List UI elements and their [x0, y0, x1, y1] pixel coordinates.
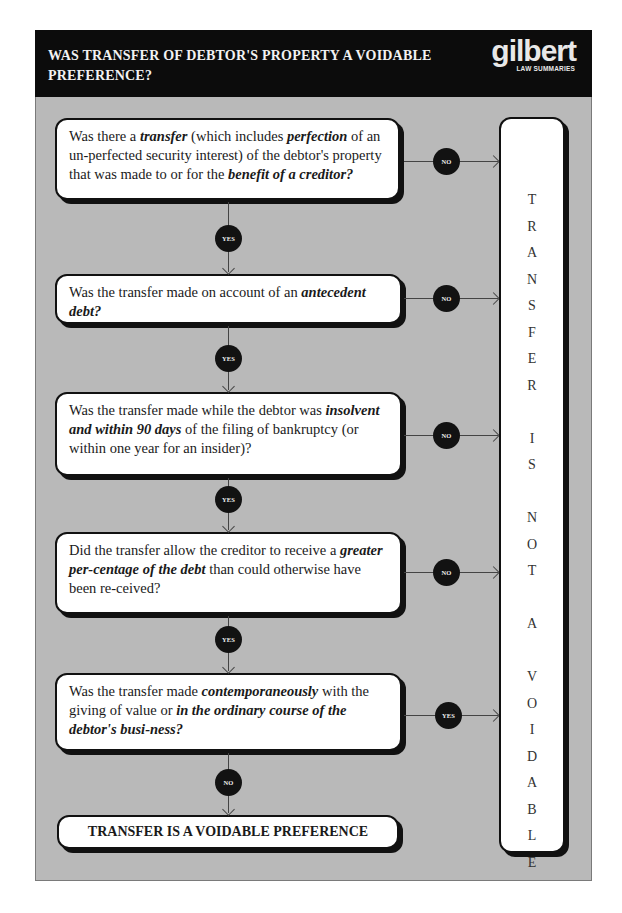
no-badge: NO	[215, 769, 242, 796]
side-box-letter: T	[501, 558, 563, 585]
question-box-antecedent-debt: Was the transfer made on account of an a…	[55, 274, 402, 324]
side-box-letter: N	[501, 505, 563, 532]
side-box-letter	[501, 479, 563, 506]
no-badge: NO	[433, 559, 460, 586]
page-title: WAS TRANSFER OF DEBTOR'S PROPERTY A VOID…	[48, 46, 438, 86]
yes-badge: YES	[215, 626, 242, 653]
question-box-insolvent: Was the transfer made while the debtor w…	[55, 392, 402, 476]
side-box-letter: S	[501, 293, 563, 320]
question-emphasis: benefit of a creditor?	[228, 166, 353, 182]
side-box-letter	[501, 638, 563, 665]
side-box-letter: D	[501, 744, 563, 771]
question-text: Was the transfer made while the debtor w…	[69, 402, 326, 418]
final-box-voidable: TRANSFER IS A VOIDABLE PREFERENCE	[57, 815, 399, 849]
side-box-letter: B	[501, 797, 563, 824]
question-box-greater-percentage: Did the transfer allow the creditor to r…	[55, 532, 402, 614]
no-badge: NO	[433, 285, 460, 312]
question-text: Did the transfer allow the creditor to r…	[69, 542, 340, 558]
question-box-contemporaneous: Was the transfer made contemporaneously …	[55, 673, 402, 751]
yes-badge: YES	[435, 702, 462, 729]
question-emphasis: perfection	[287, 128, 347, 144]
side-box-letter: A	[501, 770, 563, 797]
yes-badge: YES	[215, 345, 242, 372]
side-box-letter: F	[501, 320, 563, 347]
question-emphasis: transfer	[140, 128, 188, 144]
yes-badge: YES	[215, 486, 242, 513]
side-box-letter: I	[501, 717, 563, 744]
side-box-letter: R	[501, 373, 563, 400]
side-box-letter: O	[501, 532, 563, 559]
question-text: Was the transfer made	[69, 683, 202, 699]
yes-badge: YES	[215, 225, 242, 252]
logo-wordmark: gilbert	[491, 36, 576, 66]
side-box-letter: S	[501, 452, 563, 479]
side-box-letter: E	[501, 346, 563, 373]
no-badge: NO	[433, 148, 460, 175]
question-text: (which includes	[187, 128, 286, 144]
side-box-not-voidable: TRANSFER IS NOT A VOIDABLE	[499, 117, 565, 853]
question-text: Was the transfer made on account of an	[69, 284, 301, 300]
side-box-letter	[501, 585, 563, 612]
side-box-letter: E	[501, 850, 563, 877]
gilbert-logo: gilbert LAW SUMMARIES	[491, 36, 576, 72]
question-box-transfer: Was there a transfer (which includes per…	[55, 118, 400, 200]
question-text: Was there a	[69, 128, 140, 144]
side-box-vertical-text: TRANSFER IS NOT A VOIDABLE	[501, 187, 563, 876]
question-emphasis: contemporaneously	[202, 683, 319, 699]
side-box-letter: I	[501, 426, 563, 453]
side-box-letter: V	[501, 664, 563, 691]
side-box-letter: L	[501, 823, 563, 850]
header-bar: WAS TRANSFER OF DEBTOR'S PROPERTY A VOID…	[35, 30, 592, 97]
side-box-letter: A	[501, 611, 563, 638]
side-box-letter	[501, 399, 563, 426]
side-box-letter: T	[501, 187, 563, 214]
no-badge: NO	[433, 422, 460, 449]
side-box-letter: R	[501, 214, 563, 241]
side-box-letter: A	[501, 240, 563, 267]
side-box-letter: O	[501, 691, 563, 718]
side-box-letter: N	[501, 267, 563, 294]
